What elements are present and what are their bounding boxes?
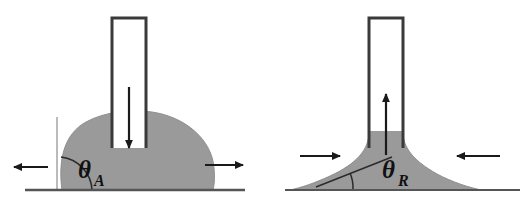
figure-canvas: θ A θ R: [0, 0, 531, 217]
angle-subscript-advancing: A: [93, 172, 105, 189]
advancing-contact-angle-panel: θ A: [14, 18, 245, 191]
receding-contact-angle-panel: θ R: [285, 18, 520, 190]
angle-label-receding: θ: [382, 156, 395, 183]
contact-angle-figure: θ A θ R: [0, 0, 531, 217]
angle-subscript-receding: R: [397, 172, 409, 189]
angle-label-advancing: θ: [78, 156, 91, 183]
